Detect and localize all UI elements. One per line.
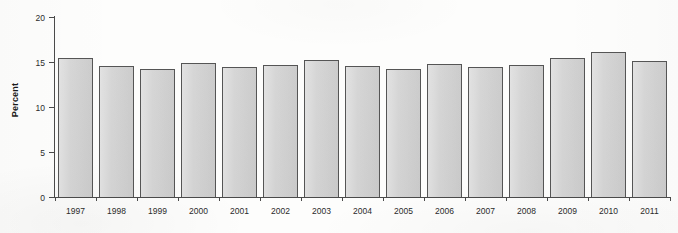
x-axis-tick-label: 2006 [435, 206, 454, 216]
bar-2011 [632, 61, 666, 197]
x-axis-tick-label: 2005 [394, 206, 413, 216]
plot-area: 05101520 1997199819992000200120022003200… [55, 17, 670, 197]
x-axis-tick-label: 2001 [230, 206, 249, 216]
x-axis-tick [506, 197, 507, 201]
x-axis-tick [137, 197, 138, 201]
x-axis-tick [178, 197, 179, 201]
x-axis-tick-label: 2010 [599, 206, 618, 216]
x-axis-tick [219, 197, 220, 201]
x-axis-tick-label: 2008 [517, 206, 536, 216]
x-axis-tick [55, 197, 56, 201]
y-axis-tick-label: 5 [40, 148, 45, 158]
x-axis-tick [588, 197, 589, 201]
x-axis-tick [547, 197, 548, 201]
bar-2005 [386, 69, 420, 197]
bar-2006 [427, 64, 461, 197]
x-axis-tick-label: 2000 [189, 206, 208, 216]
x-axis-tick [301, 197, 302, 201]
bar-1999 [140, 69, 174, 197]
x-axis-tick-label: 1998 [107, 206, 126, 216]
bar-2004 [345, 66, 379, 197]
bar-2008 [509, 65, 543, 197]
x-axis-tick-label: 2003 [312, 206, 331, 216]
y-axis-tick-label: 10 [36, 103, 45, 113]
x-axis-tick [424, 197, 425, 201]
x-axis-tick [260, 197, 261, 201]
y-axis-tick-label: 20 [36, 13, 45, 23]
y-axis-tick: 15 [49, 62, 55, 63]
bar-1998 [99, 66, 133, 197]
bar-2000 [181, 63, 215, 197]
bar-2003 [304, 60, 338, 197]
bar-2001 [222, 67, 256, 197]
x-axis-tick-label: 2009 [558, 206, 577, 216]
x-axis-tick [342, 197, 343, 201]
x-axis-tick-label: 1997 [66, 206, 85, 216]
y-axis-tick: 20 [49, 17, 55, 18]
x-axis-tick [465, 197, 466, 201]
y-axis-tick-label: 15 [36, 58, 45, 68]
x-axis-tick [670, 197, 671, 201]
x-axis-tick-label: 2007 [476, 206, 495, 216]
x-axis-tick-label: 1999 [148, 206, 167, 216]
bar-chart-figure: Percent 05101520 19971998199920002001200… [0, 0, 678, 233]
y-axis-title-text: Percent [10, 83, 20, 117]
bar-2002 [263, 65, 297, 197]
bar-1997 [58, 58, 92, 197]
bar-2010 [591, 52, 625, 197]
x-axis-tick [96, 197, 97, 201]
x-axis-tick [629, 197, 630, 201]
x-axis-tick-label: 2004 [353, 206, 372, 216]
bar-2007 [468, 67, 502, 198]
y-axis-title: Percent [4, 0, 26, 200]
x-axis-tick-label: 2002 [271, 206, 290, 216]
x-axis-tick-label: 2011 [640, 206, 658, 216]
y-axis-tick-label: 0 [40, 193, 45, 203]
bar-2009 [550, 58, 584, 197]
x-axis-tick [383, 197, 384, 201]
y-axis-tick: 10 [49, 107, 55, 108]
y-axis-tick: 5 [49, 152, 55, 153]
